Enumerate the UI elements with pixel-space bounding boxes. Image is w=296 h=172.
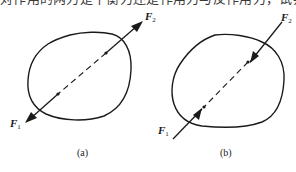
caption-b: (b) (220, 147, 232, 159)
label-f2-a: F2 (144, 10, 156, 24)
action-line-outer-top-a (106, 26, 137, 53)
label-f2-b: F2 (280, 11, 292, 25)
point-top-a (104, 51, 107, 54)
label-f1-b: F1 (157, 124, 169, 138)
point-bottom-a (56, 92, 59, 95)
label-f1-a: F1 (9, 117, 21, 131)
figure-b: F2 F1 (b) (157, 11, 292, 159)
action-line-dashed-a (58, 53, 106, 94)
action-line-dashed-b (204, 62, 248, 107)
arrowhead-f1-b (193, 108, 202, 120)
figure-a: F2 F1 (a) (9, 10, 156, 159)
body-outline-b (172, 34, 284, 127)
force-diagrams: F2 F1 (a) F2 F1 (b) (0, 0, 296, 172)
point-top-b (246, 60, 249, 63)
point-bottom-b (202, 105, 205, 108)
caption-a: (a) (77, 147, 88, 159)
